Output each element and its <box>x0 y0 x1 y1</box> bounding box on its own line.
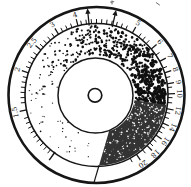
stipple-dot <box>66 151 67 152</box>
stipple-dot <box>104 52 106 54</box>
stipple-dot <box>157 100 160 103</box>
stipple-dot <box>110 31 113 34</box>
stipple-dot <box>80 50 82 52</box>
stipple-dot <box>143 97 146 100</box>
stipple-dot <box>117 31 119 33</box>
speckle-dot <box>129 121 130 122</box>
speckle-dot <box>123 140 124 141</box>
stipple-dot <box>88 156 89 157</box>
stipple-dot <box>149 92 151 94</box>
stipple-dot <box>121 60 124 63</box>
stipple-dot <box>81 30 83 32</box>
speckle-dot <box>136 113 137 114</box>
stipple-dot <box>44 94 45 95</box>
stipple-dot <box>147 94 150 97</box>
stipple-dot <box>135 68 137 70</box>
stipple-dot <box>86 39 88 41</box>
speckle-dot <box>144 110 145 111</box>
stipple-dot <box>89 52 92 55</box>
stipple-dot <box>62 128 63 129</box>
stipple-dot <box>90 25 92 27</box>
stipple-dot <box>56 65 58 67</box>
stipple-dot <box>71 31 73 33</box>
stipple-dot <box>50 74 52 76</box>
stipple-dot <box>141 70 144 73</box>
speckle-dot <box>142 136 143 137</box>
stipple-dot <box>29 84 30 85</box>
speckle-dot <box>112 135 113 136</box>
speckle-dot <box>128 117 130 119</box>
speckle-dot <box>132 125 133 126</box>
stipple-dot <box>58 59 60 61</box>
stipple-dot <box>77 44 79 46</box>
stipple-dot <box>42 116 43 117</box>
stipple-dot <box>103 49 106 52</box>
stipple-dot <box>58 147 59 148</box>
stipple-dot <box>50 136 51 137</box>
speckle-dot <box>135 108 136 109</box>
stipple-dot <box>75 39 77 41</box>
speckle-dot <box>144 104 145 105</box>
stipple-dot <box>153 69 156 72</box>
stipple-dot <box>54 54 56 56</box>
speckle-dot <box>142 123 143 124</box>
speckle-dot <box>141 112 143 114</box>
stipple-dot <box>99 37 101 39</box>
speckle-dot <box>113 149 114 150</box>
stipple-dot <box>154 91 157 94</box>
speckle-dot <box>121 134 122 135</box>
speckle-dot <box>147 132 149 134</box>
stipple-dot <box>62 122 64 124</box>
stipple-dot <box>146 73 149 76</box>
speckle-dot <box>123 148 125 150</box>
stipple-dot <box>105 40 107 42</box>
stipple-dot <box>148 56 151 59</box>
stipple-dot <box>59 50 61 52</box>
stipple-dot <box>103 29 106 32</box>
speckle-dot <box>136 132 137 133</box>
speckle-dot <box>134 119 135 120</box>
speckle-dot <box>144 132 146 134</box>
stipple-dot <box>113 49 115 51</box>
stipple-dot <box>137 77 139 79</box>
stipple-dot <box>155 74 157 76</box>
speckle-dot <box>130 134 131 135</box>
stipple-dot <box>151 60 154 63</box>
speckle-dot <box>117 141 118 142</box>
speckle-dot <box>140 107 141 108</box>
speckle-dot <box>135 148 136 149</box>
stipple-dot <box>60 63 62 65</box>
speckle-dot <box>154 115 155 116</box>
stipple-dot <box>88 43 90 45</box>
stray-mark <box>110 2 114 3</box>
speckle-dot <box>133 137 135 139</box>
speckle-dot <box>153 127 155 129</box>
stipple-dot <box>89 36 91 38</box>
stipple-dot <box>95 30 97 32</box>
stipple-dot <box>141 95 143 97</box>
stipple-dot <box>103 54 105 56</box>
stipple-dot <box>86 44 88 46</box>
stipple-dot <box>95 35 97 37</box>
stipple-dot <box>120 42 123 45</box>
stipple-dot <box>84 52 86 54</box>
stipple-dot <box>157 80 161 84</box>
stipple-dot <box>81 34 83 36</box>
stipple-dot <box>109 34 112 37</box>
stipple-dot <box>76 30 78 32</box>
speckle-dot <box>112 133 114 135</box>
stipple-dot <box>90 42 92 44</box>
stipple-dot <box>157 85 160 88</box>
stipple-dot <box>87 145 88 146</box>
speckle-dot <box>119 153 121 155</box>
speckle-dot <box>104 151 106 153</box>
speckle-dot <box>155 108 157 110</box>
speckle-dot <box>148 135 149 136</box>
stipple-dot <box>143 65 146 68</box>
stipple-dot <box>128 41 130 43</box>
speckle-dot <box>129 150 130 151</box>
speckle-dot <box>134 124 136 126</box>
stipple-dot <box>39 90 40 91</box>
stipple-dot <box>132 81 135 84</box>
speckle-dot <box>157 122 158 123</box>
